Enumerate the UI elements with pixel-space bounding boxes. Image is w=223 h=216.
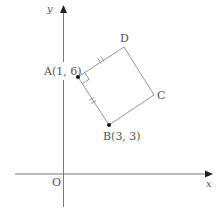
right-angle-mark [82,73,89,84]
label-c: C [157,89,165,102]
y-axis-arrow-icon [60,5,67,13]
label-b: B(3, 3) [103,130,141,143]
label-a: A(1, 6) [43,65,82,78]
label-d: D [120,32,129,45]
coordinate-diagram: A(1, 6) B(3, 3) C D O x y [0,0,223,216]
label-x-axis: x [206,178,212,189]
label-origin: O [52,176,61,189]
x-axis-arrow-icon [205,171,213,178]
point-b [107,123,111,127]
label-y-axis: y [46,3,53,14]
square-abcd [78,47,154,125]
